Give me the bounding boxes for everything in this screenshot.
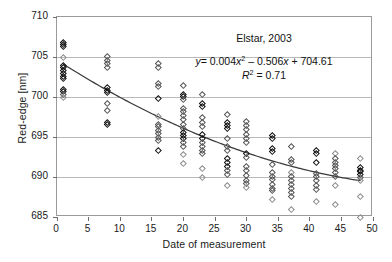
- x-tick-label-5: 5: [73, 224, 103, 234]
- data-point: [243, 184, 249, 190]
- y-tick-label-690: 690: [14, 171, 48, 181]
- x-tick-label-50: 50: [357, 224, 387, 234]
- data-point: [155, 147, 161, 153]
- y-tick-705: [53, 57, 57, 58]
- x-tick-50: [373, 217, 374, 221]
- x-tick-label-35: 35: [262, 224, 292, 234]
- data-point: [332, 182, 338, 188]
- data-point: [180, 151, 186, 157]
- x-tick-40: [309, 217, 310, 221]
- plot-area: Elstar, 2003 y= 0.004x2 – 0.506x + 704.6…: [56, 16, 372, 216]
- data-point: [199, 165, 205, 171]
- data-point: [224, 111, 230, 117]
- sample-label: Elstar, 2003: [171, 31, 357, 45]
- r-squared: R2 = 0.71: [171, 68, 357, 82]
- data-point: [224, 171, 230, 177]
- x-tick-label-15: 15: [136, 224, 166, 234]
- x-tick-label-40: 40: [294, 224, 324, 234]
- data-point: [224, 147, 230, 153]
- x-tick-20: [183, 217, 184, 221]
- data-point: [224, 182, 230, 188]
- equation-body: 0.004x: [207, 55, 241, 67]
- x-tick-5: [88, 217, 89, 221]
- data-point: [60, 54, 66, 60]
- data-point: [313, 186, 319, 192]
- data-point: [357, 214, 363, 220]
- y-tick-label-685: 685: [14, 211, 48, 221]
- fit-equation: y= 0.004x2 – 0.506x + 704.61: [171, 54, 357, 68]
- data-point: [180, 160, 186, 166]
- y-tick-label-700: 700: [14, 91, 48, 101]
- data-point: [288, 206, 294, 212]
- r2-symbol: R: [242, 69, 250, 81]
- data-point: [199, 91, 205, 97]
- data-point: [243, 139, 249, 145]
- x-tick-25: [215, 217, 216, 221]
- data-point: [313, 198, 319, 204]
- y-tick-710: [53, 17, 57, 18]
- data-point: [288, 159, 294, 165]
- r2-value: = 0.71: [254, 69, 286, 81]
- y-tick-690: [53, 177, 57, 178]
- data-point: [313, 159, 319, 165]
- x-tick-label-0: 0: [41, 224, 71, 234]
- data-point: [155, 64, 161, 70]
- x-axis-title: Date of measurement: [56, 238, 372, 250]
- data-point: [180, 82, 186, 88]
- y-tick-700: [53, 97, 57, 98]
- data-point: [357, 155, 363, 161]
- x-tick-15: [151, 217, 152, 221]
- x-tick-45: [341, 217, 342, 221]
- data-point: [155, 95, 161, 101]
- data-point: [269, 148, 275, 154]
- data-point: [104, 64, 110, 70]
- x-tick-label-25: 25: [199, 224, 229, 234]
- data-point: [269, 196, 275, 202]
- data-point: [199, 174, 205, 180]
- x-tick-label-10: 10: [104, 224, 134, 234]
- x-tick-10: [120, 217, 121, 221]
- annotation-block: Elstar, 2003 y= 0.004x2 – 0.506x + 704.6…: [171, 31, 357, 82]
- x-tick-label-20: 20: [167, 224, 197, 234]
- x-tick-30: [246, 217, 247, 221]
- x-tick-0: [57, 217, 58, 221]
- data-point: [155, 113, 161, 119]
- data-point: [288, 143, 294, 149]
- chart-figure: Red-edge [nm] Elstar, 2003 y= 0.004x2 – …: [0, 0, 392, 262]
- data-point: [269, 187, 275, 193]
- data-point: [224, 135, 230, 141]
- data-point: [332, 173, 338, 179]
- data-point: [243, 154, 249, 160]
- y-tick-label-695: 695: [14, 131, 48, 141]
- y-tick-695: [53, 137, 57, 138]
- data-point: [199, 123, 205, 129]
- data-point: [288, 193, 294, 199]
- x-tick-label-45: 45: [325, 224, 355, 234]
- x-tick-35: [278, 217, 279, 221]
- equation-rest: – 0.506x + 704.61: [245, 55, 332, 67]
- x-tick-label-30: 30: [231, 224, 261, 234]
- y-axis-title: Red-edge [nm]: [14, 0, 30, 216]
- data-point: [269, 161, 275, 167]
- y-tick-label-710: 710: [14, 11, 48, 21]
- data-point: [332, 201, 338, 207]
- y-tick-label-705: 705: [14, 51, 48, 61]
- data-point: [357, 193, 363, 199]
- data-point: [104, 107, 110, 113]
- data-point: [180, 143, 186, 149]
- data-point: [104, 100, 110, 106]
